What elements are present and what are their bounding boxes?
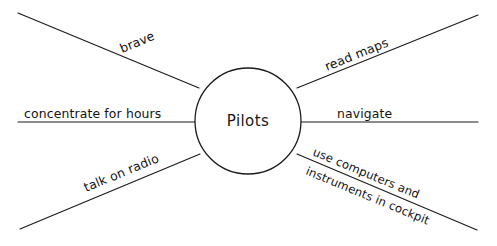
branch-label-brave: brave [117,28,156,56]
branch-line-read-maps [297,15,478,88]
mind-map-drawing: Pilots brave concentrate for hours talk … [0,0,497,246]
branch-line-talk-on-radio [20,154,200,229]
branch-label-talk-on-radio: talk on radio [81,150,161,194]
branch-label-concentrate-for-hours: concentrate for hours [24,106,161,121]
branch-line-brave [18,13,199,88]
branch-line-use-computers [297,154,477,230]
mind-map-canvas: Pilots brave concentrate for hours talk … [0,0,497,246]
central-node-label: Pilots [227,112,269,130]
branch-label-navigate: navigate [337,106,392,121]
